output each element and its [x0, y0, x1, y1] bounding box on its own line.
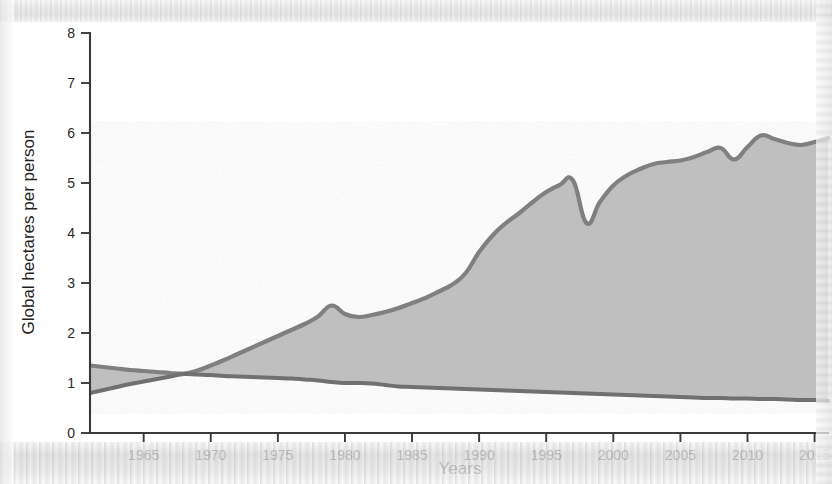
y-tick-label: 1 — [67, 375, 75, 391]
y-tick-label: 5 — [67, 175, 75, 191]
y-tick-label: 6 — [67, 125, 75, 141]
x-tick-label: 2010 — [732, 447, 763, 463]
x-tick-label: 2005 — [665, 447, 696, 463]
y-tick-label: 8 — [67, 25, 75, 41]
y-tick-label: 7 — [67, 75, 75, 91]
figure-container: 012345678 196519701975198019851990199520… — [0, 0, 832, 484]
line-area-chart: 012345678 196519701975198019851990199520… — [0, 0, 832, 484]
x-tick-label: 1995 — [531, 447, 562, 463]
plot-area — [90, 135, 828, 400]
y-tick-label: 4 — [67, 225, 75, 241]
y-axis-title-text: Global hectares per person — [19, 129, 38, 334]
y-tick-group: 012345678 — [67, 25, 90, 441]
area-between-curves — [90, 135, 828, 400]
y-tick-label: 0 — [67, 425, 75, 441]
x-axis-title-text: Years — [439, 459, 482, 478]
x-tick-label: 1980 — [329, 447, 360, 463]
x-tick-label: 1975 — [262, 447, 293, 463]
x-tick-label: 1970 — [195, 447, 226, 463]
x-tick-label: 1985 — [396, 447, 427, 463]
y-axis-title: Global hectares per person — [19, 129, 38, 334]
x-tick-label: 2015 — [799, 447, 830, 463]
x-tick-label: 2000 — [598, 447, 629, 463]
y-tick-label: 2 — [67, 325, 75, 341]
x-tick-label: 1965 — [128, 447, 159, 463]
y-tick-label: 3 — [67, 275, 75, 291]
